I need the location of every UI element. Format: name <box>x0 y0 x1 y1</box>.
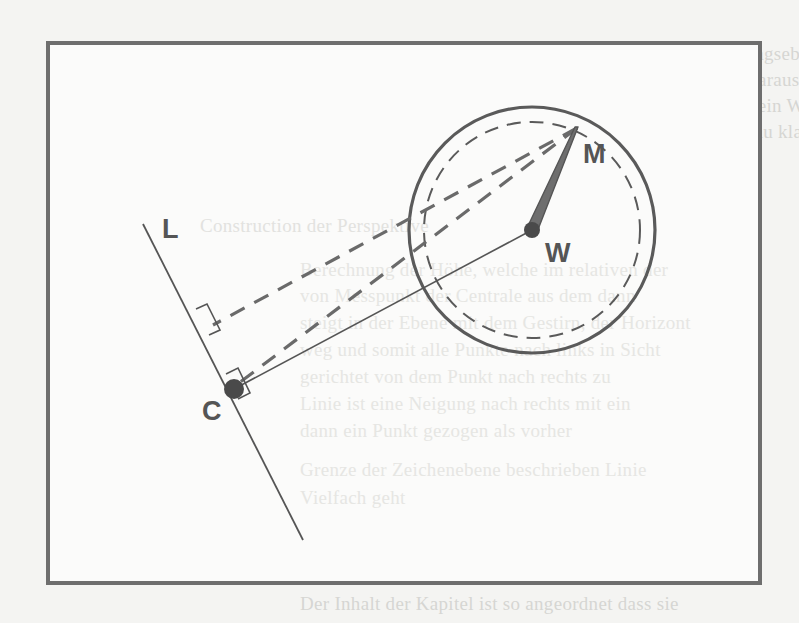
right-angle-marker-upper <box>196 304 220 335</box>
dashed-perpendicular-lower <box>239 128 577 383</box>
label-L: L <box>162 214 179 244</box>
point-W-dot <box>524 222 540 238</box>
label-W: W <box>545 238 571 268</box>
geometry-diagram: L C W M <box>0 0 799 623</box>
point-C-dot <box>224 379 244 399</box>
label-M: M <box>583 139 606 169</box>
line-C-to-W <box>234 230 532 389</box>
label-C: C <box>202 396 222 426</box>
line-L <box>143 224 303 540</box>
dashed-perpendicular-upper <box>213 128 577 325</box>
